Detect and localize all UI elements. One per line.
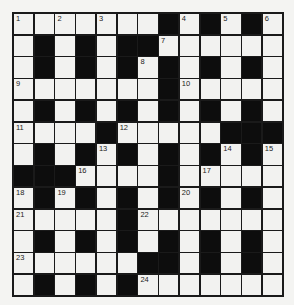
grid-cell[interactable] bbox=[55, 210, 74, 230]
grid-cell[interactable]: 2 bbox=[55, 14, 74, 34]
grid-cell[interactable] bbox=[201, 123, 220, 143]
grid-cell[interactable] bbox=[35, 253, 54, 273]
grid-cell[interactable] bbox=[55, 253, 74, 273]
grid-cell[interactable] bbox=[263, 36, 282, 56]
grid-cell[interactable] bbox=[180, 57, 199, 77]
grid-cell[interactable] bbox=[97, 57, 116, 77]
grid-cell[interactable] bbox=[76, 14, 95, 34]
grid-cell[interactable] bbox=[221, 275, 240, 295]
grid-cell[interactable] bbox=[138, 123, 157, 143]
grid-cell[interactable]: 15 bbox=[263, 144, 282, 164]
grid-cell[interactable] bbox=[35, 123, 54, 143]
grid-cell[interactable] bbox=[97, 253, 116, 273]
grid-cell[interactable] bbox=[138, 14, 157, 34]
grid-cell[interactable] bbox=[118, 79, 137, 99]
grid-cell[interactable] bbox=[201, 210, 220, 230]
grid-cell[interactable] bbox=[263, 166, 282, 186]
grid-cell[interactable] bbox=[35, 79, 54, 99]
grid-cell[interactable] bbox=[263, 79, 282, 99]
grid-cell[interactable] bbox=[97, 166, 116, 186]
grid-cell[interactable] bbox=[221, 253, 240, 273]
grid-cell[interactable]: 6 bbox=[263, 14, 282, 34]
grid-cell[interactable] bbox=[263, 188, 282, 208]
grid-cell[interactable] bbox=[180, 144, 199, 164]
grid-cell[interactable] bbox=[76, 123, 95, 143]
grid-cell[interactable] bbox=[97, 79, 116, 99]
grid-cell[interactable] bbox=[14, 144, 33, 164]
grid-cell[interactable] bbox=[180, 166, 199, 186]
grid-cell[interactable] bbox=[97, 275, 116, 295]
grid-cell[interactable]: 3 bbox=[97, 14, 116, 34]
grid-cell[interactable]: 5 bbox=[221, 14, 240, 34]
grid-cell[interactable] bbox=[221, 57, 240, 77]
grid-cell[interactable] bbox=[97, 36, 116, 56]
grid-cell[interactable] bbox=[76, 210, 95, 230]
grid-cell[interactable] bbox=[97, 188, 116, 208]
grid-cell[interactable] bbox=[97, 231, 116, 251]
grid-cell[interactable] bbox=[138, 166, 157, 186]
grid-cell[interactable]: 17 bbox=[201, 166, 220, 186]
grid-cell[interactable] bbox=[14, 275, 33, 295]
grid-cell[interactable] bbox=[55, 231, 74, 251]
grid-cell[interactable] bbox=[180, 210, 199, 230]
grid-cell[interactable] bbox=[263, 101, 282, 121]
grid-cell[interactable] bbox=[138, 188, 157, 208]
grid-cell[interactable] bbox=[180, 253, 199, 273]
grid-cell[interactable] bbox=[242, 275, 261, 295]
grid-cell[interactable]: 21 bbox=[14, 210, 33, 230]
grid-cell[interactable]: 12 bbox=[118, 123, 137, 143]
grid-cell[interactable] bbox=[35, 210, 54, 230]
grid-cell[interactable]: 18 bbox=[14, 188, 33, 208]
grid-cell[interactable]: 8 bbox=[138, 57, 157, 77]
grid-cell[interactable] bbox=[221, 36, 240, 56]
grid-cell[interactable]: 14 bbox=[221, 144, 240, 164]
grid-cell[interactable] bbox=[263, 275, 282, 295]
grid-cell[interactable]: 11 bbox=[14, 123, 33, 143]
grid-cell[interactable] bbox=[180, 36, 199, 56]
grid-cell[interactable] bbox=[221, 210, 240, 230]
grid-cell[interactable] bbox=[221, 231, 240, 251]
grid-cell[interactable]: 4 bbox=[180, 14, 199, 34]
grid-cell[interactable]: 13 bbox=[97, 144, 116, 164]
grid-cell[interactable] bbox=[14, 101, 33, 121]
grid-cell[interactable] bbox=[201, 275, 220, 295]
grid-cell[interactable] bbox=[138, 101, 157, 121]
grid-cell[interactable] bbox=[55, 36, 74, 56]
grid-cell[interactable]: 16 bbox=[76, 166, 95, 186]
grid-cell[interactable] bbox=[76, 79, 95, 99]
grid-cell[interactable] bbox=[55, 101, 74, 121]
grid-cell[interactable] bbox=[242, 36, 261, 56]
grid-cell[interactable] bbox=[14, 36, 33, 56]
grid-cell[interactable]: 20 bbox=[180, 188, 199, 208]
grid-cell[interactable] bbox=[242, 79, 261, 99]
grid-cell[interactable] bbox=[97, 210, 116, 230]
grid-cell[interactable] bbox=[180, 123, 199, 143]
grid-cell[interactable] bbox=[118, 166, 137, 186]
grid-cell[interactable]: 24 bbox=[138, 275, 157, 295]
grid-cell[interactable] bbox=[14, 231, 33, 251]
grid-cell[interactable] bbox=[263, 210, 282, 230]
grid-cell[interactable]: 9 bbox=[14, 79, 33, 99]
grid-cell[interactable] bbox=[118, 14, 137, 34]
grid-cell[interactable] bbox=[76, 253, 95, 273]
grid-cell[interactable] bbox=[221, 101, 240, 121]
grid-cell[interactable] bbox=[201, 36, 220, 56]
grid-cell[interactable] bbox=[55, 275, 74, 295]
grid-cell[interactable] bbox=[55, 123, 74, 143]
grid-cell[interactable] bbox=[138, 79, 157, 99]
grid-cell[interactable] bbox=[201, 79, 220, 99]
grid-cell[interactable] bbox=[242, 166, 261, 186]
grid-cell[interactable] bbox=[221, 188, 240, 208]
grid-cell[interactable] bbox=[180, 231, 199, 251]
grid-cell[interactable] bbox=[263, 231, 282, 251]
grid-cell[interactable] bbox=[55, 144, 74, 164]
grid-cell[interactable] bbox=[35, 14, 54, 34]
grid-cell[interactable]: 10 bbox=[180, 79, 199, 99]
grid-cell[interactable] bbox=[97, 101, 116, 121]
grid-cell[interactable] bbox=[118, 253, 137, 273]
grid-cell[interactable] bbox=[138, 231, 157, 251]
grid-cell[interactable] bbox=[180, 275, 199, 295]
grid-cell[interactable] bbox=[55, 79, 74, 99]
grid-cell[interactable]: 1 bbox=[14, 14, 33, 34]
grid-cell[interactable] bbox=[263, 253, 282, 273]
